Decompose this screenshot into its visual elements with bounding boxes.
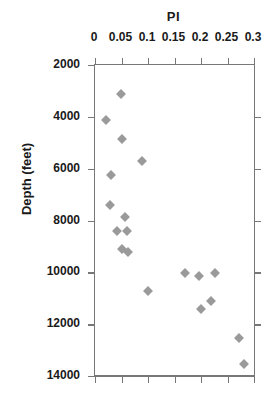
y-axis-tick	[88, 117, 95, 118]
data-point	[180, 268, 190, 278]
x-axis-bottom-line	[94, 375, 254, 377]
x-axis-tick	[95, 58, 96, 65]
x-axis-tick	[254, 58, 255, 65]
data-point	[194, 271, 204, 281]
y-axis-tick	[88, 221, 95, 222]
y-axis-tick	[88, 65, 95, 66]
chart-title: PI	[94, 10, 253, 24]
plot-area	[95, 65, 254, 376]
data-point	[101, 115, 111, 125]
x-axis-tick	[122, 58, 123, 65]
data-point	[196, 304, 206, 314]
x-axis-tick	[148, 376, 149, 383]
data-point	[210, 268, 220, 278]
data-point	[137, 156, 147, 166]
y-axis-tick	[254, 221, 261, 222]
y-tick-label: 8000	[53, 213, 80, 226]
x-axis-tick	[254, 376, 255, 383]
x-axis-tick	[95, 376, 96, 383]
x-axis-tick	[175, 58, 176, 65]
x-tick-label: 0.25	[215, 30, 238, 44]
x-axis-tick	[201, 376, 202, 383]
x-axis-tick	[175, 376, 176, 383]
x-tick-label: 0.2	[192, 30, 209, 44]
y-tick-label: 14000	[47, 369, 80, 382]
y-axis-tick	[88, 272, 95, 273]
y-axis-tick	[254, 117, 261, 118]
x-axis-tick	[228, 376, 229, 383]
data-point	[234, 333, 244, 343]
y-tick-label: 6000	[53, 161, 80, 174]
x-tick-label: 0.05	[109, 30, 132, 44]
x-tick-label: 0.1	[139, 30, 156, 44]
data-point	[117, 134, 127, 144]
y-axis-tick	[254, 324, 261, 325]
y-tick-label: 4000	[53, 109, 80, 122]
y-axis-tick	[254, 272, 261, 273]
data-point	[206, 296, 216, 306]
data-point	[120, 212, 130, 222]
x-tick-label: 0.3	[245, 30, 262, 44]
x-axis-tick	[148, 58, 149, 65]
x-tick-label: 0.15	[162, 30, 185, 44]
data-point	[106, 170, 116, 180]
y-axis-tick	[88, 169, 95, 170]
data-point	[122, 226, 132, 236]
x-axis-tick	[228, 58, 229, 65]
y-tick-label: 10000	[47, 265, 80, 278]
x-tick-label: 0	[91, 30, 98, 44]
y-tick-label: 2000	[53, 58, 80, 71]
y-axis-tick	[88, 324, 95, 325]
y-axis-tick-labels: 2000400060008000100001200014000	[0, 0, 88, 395]
data-point	[116, 89, 126, 99]
data-point	[143, 286, 153, 296]
pi-vs-depth-scatter-chart: PI 00.050.10.150.20.250.3 Depth (feet) 2…	[0, 0, 278, 395]
x-axis-tick	[122, 376, 123, 383]
data-point	[105, 200, 115, 210]
data-point	[112, 226, 122, 236]
y-axis-tick	[254, 169, 261, 170]
x-axis-tick	[201, 58, 202, 65]
data-point	[239, 359, 249, 369]
y-tick-label: 12000	[47, 317, 80, 330]
plot-frame	[94, 64, 255, 376]
